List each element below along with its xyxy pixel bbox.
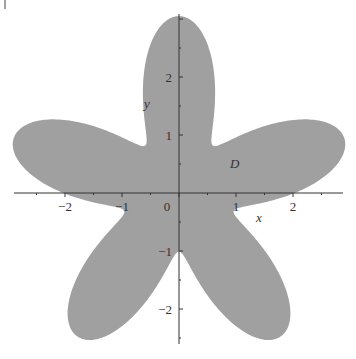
x-tick-label: −1 [115, 199, 129, 214]
x-tick-label: −2 [58, 199, 72, 214]
x-axis-label: x [255, 210, 262, 225]
x-tick-label: 1 [233, 199, 240, 214]
polar-region-plot: −2−1012−2−112 -2 x y D [0, 0, 356, 359]
y-tick-label: 1 [166, 128, 173, 143]
x-tick-label: 2 [290, 199, 297, 214]
y-tick-label: 2 [166, 70, 173, 85]
y-tick-label: −1 [158, 244, 172, 259]
x-tick-label: 0 [164, 199, 171, 214]
region-label-d: D [229, 156, 240, 171]
y-axis-label: y [142, 96, 150, 111]
y-tick-label: −2 [158, 302, 172, 317]
